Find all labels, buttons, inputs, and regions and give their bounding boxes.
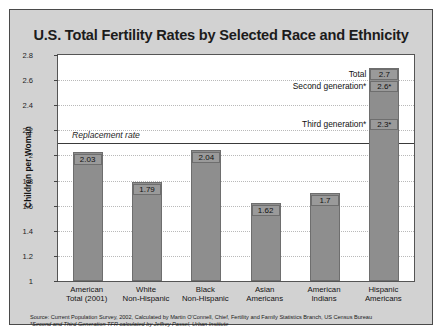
y-axis-tickmark — [54, 256, 58, 257]
y-axis-tick: 2.4 — [0, 101, 33, 110]
bar — [191, 150, 221, 281]
y-axis-tickmark — [54, 206, 58, 207]
replacement-rate-line — [58, 143, 414, 144]
source-note: Source: Current Population Survey, 2002,… — [30, 314, 435, 321]
annotation-label: Third generation* — [302, 119, 366, 129]
y-axis-tickmark — [54, 130, 58, 131]
y-axis-tickmark — [54, 281, 58, 282]
gridline — [58, 206, 414, 207]
gridline — [58, 181, 414, 182]
y-axis-tick: 2.6 — [0, 76, 33, 85]
y-axis-tickmark — [54, 181, 58, 182]
x-axis-label-line: Hispanic — [343, 285, 423, 294]
x-axis-label: HispanicAmericans — [343, 285, 423, 304]
y-axis-tickmark — [54, 55, 58, 56]
gridline — [58, 231, 414, 232]
y-axis-tick: 1.4 — [0, 226, 33, 235]
replacement-rate-label: Replacement rate — [72, 130, 140, 140]
x-axis-label-line: Americans — [343, 294, 423, 303]
chart-title: U.S. Total Fertility Rates by Selected R… — [10, 27, 432, 43]
y-axis-tick: 1.2 — [0, 251, 33, 260]
y-axis-tick: 1 — [0, 277, 33, 286]
gridline — [58, 256, 414, 257]
bar — [132, 182, 162, 281]
y-axis-tick: 2.8 — [0, 51, 33, 60]
plot-area: 2.82.62.42.221.81.61.41.21Replacement ra… — [57, 54, 415, 282]
y-axis-tickmark — [54, 231, 58, 232]
bar-value-label: 1.62 — [252, 205, 280, 216]
footnote-asterisk: *Second and Third Generation TFR calcula… — [30, 321, 435, 328]
annotation-value-label: 2.3* — [370, 119, 398, 130]
bar — [310, 193, 340, 281]
annotation-label: Total — [349, 69, 367, 79]
gridline — [58, 105, 414, 106]
y-axis-tickmark — [54, 105, 58, 106]
bar-value-label: 2.03 — [74, 154, 102, 165]
y-axis-tickmark — [54, 80, 58, 81]
annotation-value-label: 2.7 — [370, 69, 398, 80]
source-footnote: Source: Current Population Survey, 2002,… — [30, 314, 435, 329]
chart-panel: U.S. Total Fertility Rates by Selected R… — [9, 9, 433, 325]
bar — [369, 68, 399, 281]
chart-figure: U.S. Total Fertility Rates by Selected R… — [0, 0, 442, 336]
y-axis-label: Children per Woman — [23, 126, 33, 208]
bar-value-label: 2.04 — [192, 152, 220, 163]
annotation-value-label: 2.6* — [370, 81, 398, 92]
annotation-label: Second generation* — [293, 81, 367, 91]
bar — [73, 152, 103, 281]
gridline — [58, 155, 414, 156]
y-axis-tickmark — [54, 155, 58, 156]
bar-value-label: 1.79 — [133, 184, 161, 195]
bar-value-label: 1.7 — [311, 195, 339, 206]
